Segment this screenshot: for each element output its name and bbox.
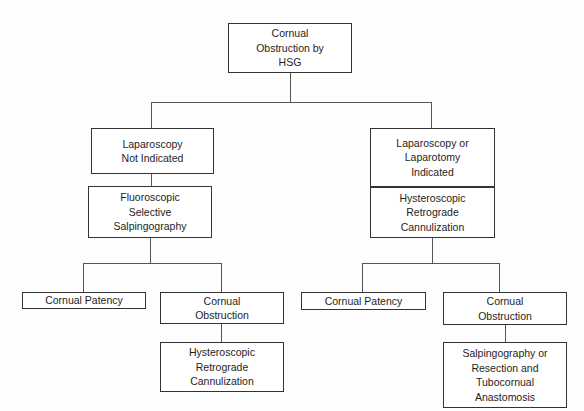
node-left-cornual-obstruction: Cornual Obstruction (160, 292, 284, 324)
connector (83, 263, 221, 264)
connector (221, 263, 222, 292)
node-left-final-cannulization: Hysteroscopic Retrograde Cannulization (160, 342, 284, 392)
node-right-cornual-obstruction: Cornual Obstruction (443, 292, 567, 325)
node-root: Cornual Obstruction by HSG (228, 23, 352, 73)
connector (431, 102, 432, 129)
node-fluoroscopic-salpingography: Fluoroscopic Selective Salpingography (88, 186, 212, 238)
node-right-final-anastomosis: Salpingography or Resection and Tubocorn… (443, 342, 567, 408)
connector (290, 73, 291, 102)
node-right-cornual-patency: Cornual Patency (301, 292, 426, 310)
node-hysteroscopic-cannulization: Hysteroscopic Retrograde Cannulization (370, 187, 495, 238)
node-laparoscopy-not-indicated: Laparoscopy Not Indicated (91, 128, 214, 174)
flowchart-canvas: Cornual Obstruction by HSG Laparoscopy N… (0, 0, 584, 411)
connector (150, 238, 151, 263)
connector (362, 263, 363, 292)
connector (151, 102, 152, 129)
node-left-cornual-patency: Cornual Patency (22, 292, 146, 309)
connector (432, 238, 433, 263)
connector (362, 263, 500, 264)
connector (83, 263, 84, 292)
connector (499, 263, 500, 292)
connector (151, 102, 432, 103)
node-laparoscopy-indicated: Laparoscopy or Laparotomy Indicated (370, 128, 495, 187)
